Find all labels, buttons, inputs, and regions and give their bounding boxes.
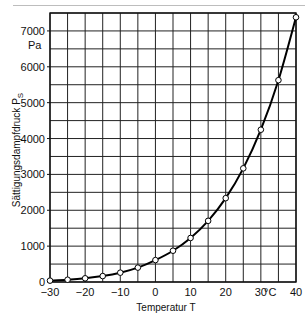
x-axis-title: Temperatur T — [136, 302, 195, 313]
y-axis-title: Sättigungsdampfdruck PS — [11, 93, 25, 207]
data-point-marker — [47, 278, 53, 284]
data-point-marker — [205, 218, 211, 224]
data-point-marker — [153, 257, 159, 263]
y-axis-subscript: S — [16, 93, 25, 98]
vapor-pressure-chart: −30−20−10010203040 010002000300040005000… — [0, 0, 305, 318]
y-tick-label: 3000 — [21, 168, 45, 180]
grid — [47, 13, 296, 282]
x-tick-label: −10 — [111, 286, 130, 298]
data-point-marker — [117, 270, 123, 276]
data-point-marker — [258, 127, 264, 133]
y-tick-label: 4000 — [21, 133, 45, 145]
y-tick-label: 0 — [39, 276, 45, 288]
y-unit-label: Pa — [28, 39, 42, 51]
y-tick-label: 6000 — [21, 61, 45, 73]
data-point-marker — [188, 235, 194, 241]
data-point-marker — [276, 77, 282, 83]
y-tick-label: 7000 — [21, 25, 45, 37]
data-point-marker — [223, 195, 229, 201]
y-tick-label: 1000 — [21, 240, 45, 252]
x-tick-label: 10 — [184, 286, 196, 298]
y-tick-label: 2000 — [21, 204, 45, 216]
x-tick-labels: −30−20−10010203040 — [41, 286, 302, 298]
data-point-marker — [100, 273, 106, 279]
x-unit-label: °C — [264, 286, 276, 298]
y-axis-title-group: Sättigungsdampfdruck PS — [11, 93, 25, 207]
data-point-marker — [293, 14, 299, 20]
x-tick-label: 40 — [290, 286, 302, 298]
x-tick-label: −20 — [76, 286, 95, 298]
x-tick-label: 20 — [220, 286, 232, 298]
x-tick-label: 0 — [152, 286, 158, 298]
y-tick-labels: 01000200030004000500060007000 — [21, 25, 45, 288]
data-point-marker — [135, 265, 141, 271]
data-point-marker — [82, 276, 88, 282]
data-point-marker — [65, 277, 71, 283]
data-point-marker — [170, 248, 176, 254]
data-point-marker — [240, 166, 246, 172]
